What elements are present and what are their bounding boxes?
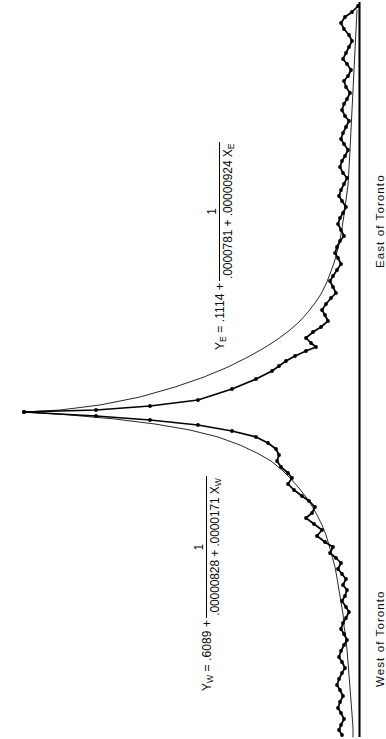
data-point-marker: [309, 341, 313, 345]
data-point-marker: [345, 638, 349, 642]
data-point-marker: [343, 594, 347, 598]
data-point-marker: [304, 349, 308, 353]
observed-data-west: [24, 412, 349, 735]
data-point-marker: [340, 159, 344, 163]
data-point-marker: [350, 10, 354, 14]
data-point-marker: [329, 296, 333, 300]
data-point-marker: [348, 91, 352, 95]
data-point-marker: [315, 534, 319, 538]
data-point-marker: [22, 410, 26, 414]
data-point-marker: [230, 429, 234, 433]
west-equation: YW = .6089 + 1 .00000828 + .0000171 XW: [193, 476, 223, 691]
data-point-marker: [337, 677, 341, 681]
data-point-marker: [341, 694, 345, 698]
data-point-marker: [344, 51, 348, 55]
data-point-marker: [275, 459, 279, 463]
data-point-marker: [340, 108, 344, 112]
data-point-marker: [338, 165, 342, 169]
data-point-marker: [270, 369, 274, 373]
data-point-marker: [341, 621, 345, 625]
data-point-marker: [344, 577, 348, 581]
data-point-marker: [339, 188, 343, 192]
data-point-marker: [342, 102, 346, 106]
data-point-marker: [349, 68, 353, 72]
data-point-marker: [323, 540, 327, 544]
data-point-marker: [342, 717, 346, 721]
data-point-marker: [290, 476, 294, 480]
data-point-marker: [338, 239, 342, 243]
data-point-marker: [340, 599, 344, 603]
east-equation-lhs: YE = .1114 +: [213, 281, 228, 350]
data-point-marker: [347, 33, 351, 37]
data-point-marker: [94, 414, 98, 418]
data-point-marker: [345, 97, 349, 101]
data-point-marker: [347, 610, 351, 614]
data-point-marker: [342, 632, 346, 636]
west-axis-label: West of Toronto: [374, 590, 386, 687]
data-point-marker: [342, 234, 346, 238]
east-eq-denominator: .0000781 + .00000924 XE: [220, 142, 236, 281]
east-equation-annotation: YE = .1114 + 1 .0000781 + .00000924 XE: [206, 142, 236, 350]
data-point-marker: [307, 499, 311, 503]
data-point-marker: [341, 583, 345, 587]
data-point-marker: [339, 262, 343, 266]
data-point-marker: [196, 423, 200, 427]
data-point-marker: [148, 404, 152, 408]
east-eq-y: Y: [213, 342, 227, 350]
data-point-marker: [350, 39, 354, 43]
data-point-marker: [320, 528, 324, 532]
data-point-marker: [196, 398, 200, 402]
data-point-marker: [336, 222, 340, 226]
data-point-marker: [266, 441, 270, 445]
west-eq-numerator: 1: [193, 540, 206, 555]
data-point-marker: [254, 377, 258, 381]
data-point-marker: [277, 453, 281, 457]
data-point-marker: [148, 418, 152, 422]
data-point-marker: [341, 211, 345, 215]
data-point-marker: [286, 471, 290, 475]
data-point-marker: [337, 194, 341, 198]
data-point-marker: [337, 655, 341, 659]
west-eq-intercept: = .6089 +: [200, 620, 214, 675]
data-point-marker: [312, 522, 316, 526]
data-point-marker: [343, 154, 347, 158]
data-point-marker: [339, 21, 343, 25]
data-point-marker: [339, 627, 343, 631]
data-point-marker: [300, 494, 304, 498]
data-point-marker: [230, 387, 234, 391]
data-point-marker: [344, 125, 348, 129]
data-point-marker: [335, 245, 339, 249]
west-eq-y: Y: [200, 683, 214, 691]
west-equation-annotation: YW = .6089 + 1 .00000828 + .0000171 XW: [193, 476, 223, 691]
data-point-marker: [336, 706, 340, 710]
east-eq-y-subscript: E: [218, 336, 228, 342]
data-point-marker: [340, 671, 344, 675]
fitted-curve-west: [24, 412, 353, 737]
data-point-marker: [292, 488, 296, 492]
data-point-marker: [339, 228, 343, 232]
data-point-marker: [331, 285, 335, 289]
data-point-marker: [347, 45, 351, 49]
data-point-marker: [338, 688, 342, 692]
data-point-marker: [339, 561, 343, 565]
data-point-marker: [343, 114, 347, 118]
data-point-marker: [331, 274, 335, 278]
data-point-marker: [346, 74, 350, 78]
east-axis-label: East of Toronto: [374, 174, 386, 268]
west-equation-lhs: YW = .6089 +: [200, 618, 215, 691]
data-point-marker: [333, 251, 337, 255]
east-eq-numerator: 1: [206, 204, 219, 219]
data-point-marker: [345, 176, 349, 180]
data-point-marker: [334, 556, 338, 560]
data-point-marker: [342, 182, 346, 186]
data-point-marker: [304, 336, 308, 340]
data-point-marker: [310, 511, 314, 515]
data-point-marker: [338, 700, 342, 704]
west-eq-denominator-subscript: W: [213, 478, 223, 486]
data-point-marker: [343, 15, 347, 19]
data-point-marker: [324, 302, 328, 306]
data-point-marker: [345, 62, 349, 66]
observed-data-east: [24, 6, 358, 412]
data-point-marker: [293, 354, 297, 358]
